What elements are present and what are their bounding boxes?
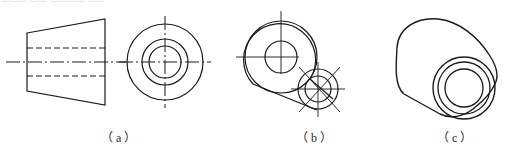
frustum-side-view [119, 16, 211, 108]
caption-c: （ c ） [437, 128, 472, 146]
cam-body-pictorial-outline [396, 19, 497, 117]
caption-b: （ b ） [296, 128, 332, 146]
boss-outer-circle [433, 57, 495, 119]
subfigure-a [6, 16, 211, 108]
subfigure-c [396, 19, 497, 119]
engineering-drawing-figure: □□□ □□ □□□□ □□ [0, 0, 514, 152]
boss-rim-circle [438, 62, 490, 114]
frustum-front-view [6, 19, 126, 105]
boss-bore-circle [445, 69, 483, 107]
subfigure-b [236, 11, 345, 117]
caption-a: （ a ） [101, 128, 136, 146]
